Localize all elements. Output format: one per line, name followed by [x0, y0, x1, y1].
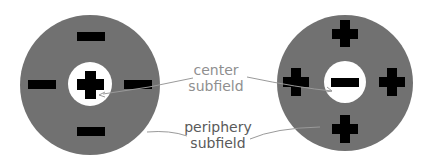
center-label: center subfield: [186, 62, 246, 94]
periphery-label-line2: subfield: [180, 135, 256, 151]
center-label-line1: center: [186, 62, 246, 78]
periphery-label: periphery subfield: [180, 119, 256, 151]
minus-icon: [77, 32, 105, 41]
center-label-line2: subfield: [186, 78, 246, 94]
off-center-field: [277, 15, 413, 151]
minus-icon: [28, 80, 56, 89]
minus-icon: [331, 78, 359, 87]
minus-icon: [77, 127, 105, 136]
on-center-field: [20, 15, 160, 155]
periphery-label-line1: periphery: [180, 119, 256, 135]
